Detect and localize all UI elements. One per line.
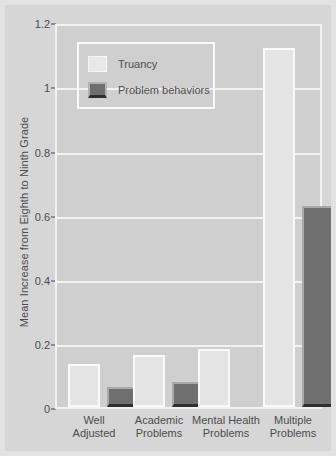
legend-label-problem-behaviors: Problem behaviors xyxy=(118,84,210,96)
y-tick-label-3: 0.6 xyxy=(8,211,50,223)
legend-label-truancy: Truancy xyxy=(118,58,157,70)
y-tick-label-0: 0 xyxy=(8,403,50,415)
x-category-multiple-problems: Multiple Problems xyxy=(254,414,332,440)
legend-item-problem-behaviors: Problem behaviors xyxy=(88,82,210,98)
plot-area: Truancy Problem behaviors xyxy=(55,24,322,409)
bar-truancy-well-adjusted xyxy=(68,364,100,407)
y-tick-label-5: 1 xyxy=(8,82,50,94)
legend-swatch-problem-behaviors xyxy=(88,82,107,98)
x-category-multiple-problems-line1: Multiple xyxy=(254,414,332,427)
bar-problem-behaviors-multiple-problems xyxy=(302,206,333,407)
y-tick-label-6: 1.2 xyxy=(8,18,50,30)
bar-truancy-mental-health-problems xyxy=(198,349,230,407)
bar-truancy-multiple-problems xyxy=(263,48,295,407)
y-tick-label-2: 0.4 xyxy=(8,275,50,287)
y-tick-label-1: 0.2 xyxy=(8,339,50,351)
x-category-multiple-problems-line2: Problems xyxy=(254,427,332,440)
legend: Truancy Problem behaviors xyxy=(77,42,215,109)
bar-truancy-academic-problems xyxy=(133,355,165,407)
y-tick-label-4: 0.8 xyxy=(8,147,50,159)
legend-swatch-truancy xyxy=(88,56,107,72)
bar-chart-figure: Mean Increase from Eighth to Ninth Grade… xyxy=(0,0,336,456)
legend-item-truancy: Truancy xyxy=(88,56,157,72)
